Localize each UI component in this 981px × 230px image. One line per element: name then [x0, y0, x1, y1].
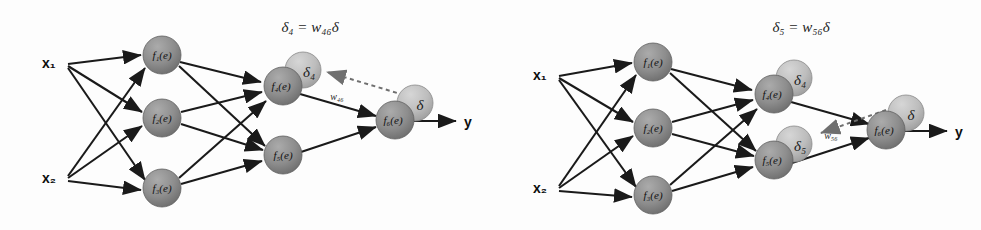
node-label-f4: f₄(e) [271, 80, 290, 93]
output-label-y: y [464, 114, 472, 130]
edge-f5-f6 [301, 127, 376, 152]
edge-f2-f4 [181, 92, 262, 112]
node-label-f6: f₆(e) [383, 114, 402, 127]
input-label-x1: x₁ [533, 67, 547, 83]
diagram-panel-left: f₁(e) f₂(e) f₃(e) f₄(e) f₅(e) f₆(e) δ₄ δ… [0, 0, 490, 230]
edge-f3-f4 [670, 109, 757, 185]
input-label-x2: x₂ [42, 170, 56, 186]
delta-label-f5: δ₅ [794, 138, 806, 154]
delta-label-f6: δ [417, 97, 425, 113]
edges-input-to-hidden-left [68, 55, 145, 190]
edge-x1-f1 [559, 63, 632, 76]
delta-label-f6: δ [908, 107, 916, 123]
edges-hidden2-to-output-left [300, 94, 376, 152]
node-label-f1: f₁(e) [643, 56, 662, 69]
input-label-x2: x₂ [533, 180, 547, 196]
node-label-f4: f₄(e) [762, 88, 781, 101]
edge-f2-f4 [672, 100, 753, 122]
weight-label-w46: w₄₆ [330, 91, 344, 102]
node-label-f6: f₆(e) [874, 124, 893, 137]
edge-f1-f5 [179, 66, 265, 146]
edge-x2-f2 [559, 136, 633, 188]
edge-x2-f3 [559, 191, 632, 197]
node-label-f3: f₃(e) [152, 182, 171, 195]
edges-input-to-hidden-right [559, 63, 636, 197]
network-diagram-left: f₁(e) f₂(e) f₃(e) f₄(e) f₅(e) f₆(e) δ₄ δ… [0, 0, 490, 230]
edge-x1-f1 [68, 55, 141, 64]
input-label-x1: x₁ [42, 55, 56, 71]
edge-f3-f5 [672, 167, 753, 191]
edge-x2-f2 [68, 126, 142, 178]
edge-f1-f5 [670, 73, 756, 151]
formula-delta5: δ₅ = w₅₆δ [772, 19, 830, 35]
network-diagram-right: f₁(e) f₂(e) f₃(e) f₄(e) f₅(e) f₆(e) δ₄ δ… [491, 0, 981, 230]
edge-x2-f3 [68, 181, 141, 190]
edges-hidden-to-hidden2-left [179, 62, 266, 184]
node-label-f2: f₂(e) [152, 112, 171, 125]
output-label-y: y [955, 124, 963, 140]
edge-f2-f5 [181, 124, 263, 150]
node-label-f5: f₅(e) [762, 154, 781, 167]
weight-label-w56: w₅₆ [824, 130, 838, 141]
delta-label-f4: δ₄ [303, 64, 315, 80]
formula-delta4: δ₄ = w₄₆δ [281, 19, 339, 35]
diagram-panel-right: f₁(e) f₂(e) f₃(e) f₄(e) f₅(e) f₆(e) δ₄ δ… [491, 0, 981, 230]
node-label-f2: f₂(e) [643, 122, 662, 135]
delta-label-f4: δ₄ [794, 72, 806, 88]
node-label-f3: f₃(e) [643, 189, 662, 202]
figure-canvas: f₁(e) f₂(e) f₃(e) f₄(e) f₅(e) f₆(e) δ₄ δ… [0, 0, 981, 230]
edge-f3-f4 [179, 101, 266, 178]
node-label-f5: f₅(e) [273, 149, 292, 162]
node-label-f1: f₁(e) [152, 49, 171, 62]
edge-x1-f2 [559, 78, 633, 122]
edges-hidden-to-hidden2-right [670, 69, 757, 191]
edge-f1-f4 [671, 69, 752, 90]
